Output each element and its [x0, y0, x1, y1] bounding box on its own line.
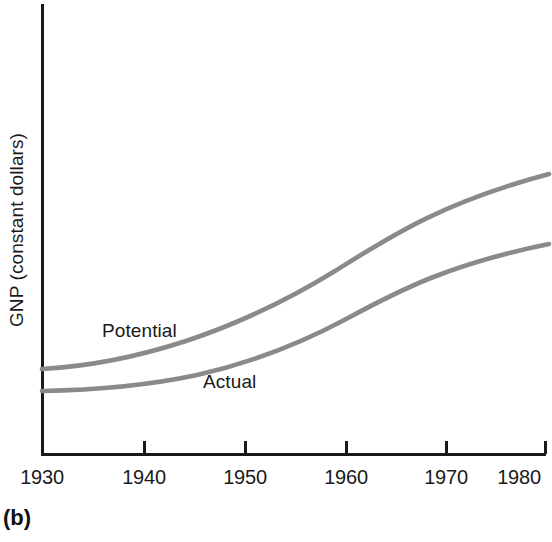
x-tick-label-1950: 1950	[213, 466, 277, 489]
x-tick-label-1960: 1960	[314, 466, 378, 489]
plot-background	[0, 0, 552, 542]
panel-caption: (b)	[3, 505, 31, 531]
chart-plot-area	[0, 0, 552, 542]
series-label-potential: Potential	[102, 320, 177, 342]
x-tick-label-1980: 1980	[487, 466, 551, 489]
figure-container: GNP (constant dollars) 1930 1940 1950 19…	[0, 0, 552, 542]
x-tick-label-1940: 1940	[112, 466, 176, 489]
series-label-actual: Actual	[203, 371, 256, 393]
x-tick-label-1930: 1930	[10, 466, 74, 489]
x-tick-label-1970: 1970	[414, 466, 478, 489]
